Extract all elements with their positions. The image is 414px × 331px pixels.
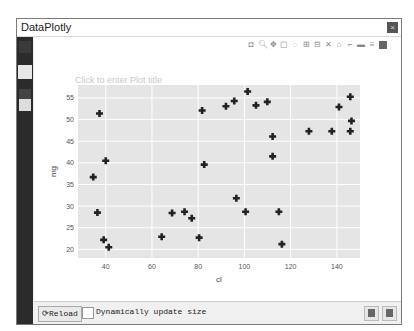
y-tick-label: 35 bbox=[66, 181, 74, 188]
x-tick-label: 100 bbox=[239, 263, 251, 270]
y-tick-label: 55 bbox=[66, 94, 74, 101]
y-axis-label: mg bbox=[49, 166, 58, 177]
plot-background bbox=[78, 85, 360, 258]
dataplotly-window: DataPlotly × ◘ 🔍︎ ✥ ▢ ◌ ⊞ ⊟ ✕ ⌂ ⌐ ▬ ≡ Cl… bbox=[16, 18, 402, 325]
y-tick-label: 50 bbox=[66, 116, 74, 123]
y-tick-label: 25 bbox=[66, 224, 74, 231]
export-file-icon bbox=[386, 309, 393, 317]
x-tick-label: 40 bbox=[102, 263, 110, 270]
x-tick-label: 120 bbox=[285, 263, 297, 270]
y-tick-label: 20 bbox=[66, 246, 74, 253]
layout-icon bbox=[368, 309, 375, 317]
window-title: DataPlotly bbox=[21, 21, 71, 33]
close-button[interactable]: × bbox=[387, 22, 398, 33]
plot-area: ◘ 🔍︎ ✥ ▢ ◌ ⊞ ⊟ ✕ ⌂ ⌐ ▬ ≡ Click to enter … bbox=[34, 37, 401, 302]
bottom-toolbar: ⟳Reload Dynamically update size bbox=[34, 301, 401, 324]
plot-settings-icon[interactable] bbox=[19, 41, 31, 53]
layout-button[interactable] bbox=[364, 306, 379, 321]
y-tick-label: 40 bbox=[66, 159, 74, 166]
sidebar bbox=[17, 37, 33, 324]
export-button[interactable] bbox=[382, 306, 397, 321]
y-tick-label: 30 bbox=[66, 203, 74, 210]
dynamic-update-label: Dynamically update size bbox=[96, 307, 206, 316]
scatter-chart: 4060801001201402025303540455055clmg bbox=[34, 37, 403, 303]
plot-canvas-icon[interactable] bbox=[18, 65, 32, 79]
reload-label: Reload bbox=[49, 309, 78, 318]
title-bar: DataPlotly × bbox=[17, 19, 401, 37]
x-tick-label: 140 bbox=[331, 263, 343, 270]
y-tick-label: 45 bbox=[66, 138, 74, 145]
x-tick-label: 60 bbox=[148, 263, 156, 270]
dynamic-update-checkbox[interactable] bbox=[82, 307, 94, 319]
reload-button[interactable]: ⟳Reload bbox=[38, 306, 82, 322]
export-icon[interactable] bbox=[19, 99, 31, 111]
x-axis-label: cl bbox=[216, 275, 222, 284]
x-tick-label: 80 bbox=[194, 263, 202, 270]
